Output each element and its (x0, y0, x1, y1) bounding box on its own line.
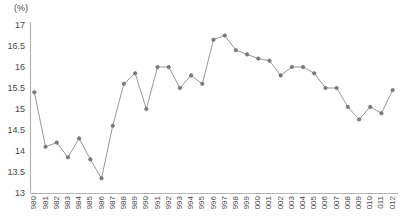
data-point-marker (391, 88, 395, 92)
data-point-marker (290, 65, 294, 69)
data-point-marker (212, 38, 216, 42)
x-axis-tick-label: 985 (86, 196, 94, 209)
axis-lines (31, 22, 399, 194)
x-axis-tick-label: 011 (377, 196, 385, 209)
x-axis-tick-label: 994 (187, 196, 195, 209)
x-axis-tick-label: 996 (210, 196, 218, 209)
x-axis-tick-label: 982 (53, 196, 61, 209)
x-axis-tick-label: 003 (288, 196, 296, 209)
chart-container: (%) 1313.51414.51515.51616.517 980981982… (0, 0, 401, 221)
x-axis-tick-label: 980 (30, 196, 38, 209)
x-axis-tick-label: 004 (299, 196, 307, 209)
data-point-marker (145, 107, 149, 111)
data-point-marker (346, 105, 350, 109)
x-axis-tick-label: 988 (120, 196, 128, 209)
x-axis-tick-label: 000 (254, 196, 262, 209)
data-point-marker (234, 48, 238, 52)
x-axis-tick-label: 012 (389, 196, 397, 209)
x-axis-tick-label: 992 (165, 196, 173, 209)
line-chart-plot (0, 0, 401, 221)
x-axis-tick-label: 009 (355, 196, 363, 209)
x-axis-tick-label: 997 (221, 196, 229, 209)
data-point-marker (256, 57, 260, 61)
data-point-marker (268, 59, 272, 63)
data-point-markers (33, 34, 395, 180)
x-axis-tick-label: 010 (366, 196, 374, 209)
data-point-marker (301, 65, 305, 69)
data-point-marker (156, 65, 160, 69)
data-point-marker (312, 72, 316, 76)
data-point-marker (335, 86, 339, 90)
data-point-marker (201, 82, 205, 86)
x-axis-tick-label: 987 (109, 196, 117, 209)
x-axis-tick-label: 998 (232, 196, 240, 209)
x-axis-tick-label: 002 (277, 196, 285, 209)
x-axis-tick-label: 006 (321, 196, 329, 209)
x-axis-tick-label: 007 (333, 196, 341, 209)
x-axis-tick-label: 983 (64, 196, 72, 209)
data-point-marker (111, 124, 115, 128)
data-point-marker (66, 156, 70, 160)
data-point-marker (279, 74, 283, 78)
x-axis-tick-label: 990 (142, 196, 150, 209)
data-point-marker (178, 86, 182, 90)
data-point-marker (223, 34, 227, 38)
x-axis-tick-label: 995 (198, 196, 206, 209)
data-point-marker (55, 141, 59, 145)
data-point-marker (133, 72, 137, 76)
data-point-marker (357, 118, 361, 122)
data-point-marker (44, 145, 48, 149)
data-point-marker (89, 158, 93, 162)
data-point-marker (100, 177, 104, 181)
data-point-marker (167, 65, 171, 69)
x-axis-tick-label: 008 (344, 196, 352, 209)
x-axis-tick-label: 999 (243, 196, 251, 209)
x-axis-tick-label: 005 (310, 196, 318, 209)
data-point-marker (368, 105, 372, 109)
x-axis-tick-label: 981 (42, 196, 50, 209)
x-axis-tick-label: 001 (265, 196, 273, 209)
data-point-marker (324, 86, 328, 90)
x-axis-tick-label: 989 (131, 196, 139, 209)
data-point-marker (380, 111, 384, 115)
x-axis-tick-label: 986 (98, 196, 106, 209)
data-point-marker (77, 137, 81, 141)
data-point-marker (245, 53, 249, 57)
data-point-marker (122, 82, 126, 86)
data-point-marker (33, 90, 37, 94)
x-axis-tick-label: 984 (75, 196, 83, 209)
data-series-line (34, 36, 392, 179)
x-axis-tick-label: 991 (154, 196, 162, 209)
x-axis-tick-label: 993 (176, 196, 184, 209)
data-point-marker (189, 74, 193, 78)
